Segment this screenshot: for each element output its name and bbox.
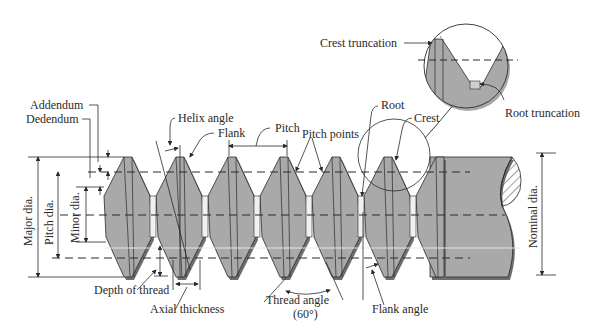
label-flank-angle: Flank angle [372, 302, 428, 316]
label-pitch-points: Pitch points [302, 127, 359, 141]
label-thread-angle-value: (60°) [293, 307, 318, 321]
label-nominal-dia: Nominal dia. [526, 185, 540, 248]
label-major-dia: Major dia. [21, 196, 35, 246]
label-dedendum: Dedendum [26, 112, 79, 126]
label-flank: Flank [218, 126, 245, 140]
label-pitch: Pitch [275, 121, 300, 135]
label-root-truncation: Root truncation [505, 106, 580, 120]
label-root: Root [381, 98, 405, 112]
label-pitch-dia: Pitch dia. [42, 200, 56, 245]
label-crest: Crest [414, 111, 440, 125]
label-depth-of-thread: Depth of thread [94, 283, 169, 297]
truncation-detail [404, 24, 518, 111]
label-helix-angle: Helix angle [178, 111, 234, 125]
label-axial-thickness: Axial thickness [150, 302, 225, 316]
label-crest-truncation: Crest truncation [320, 36, 397, 50]
label-minor-dia: Minor dia. [68, 192, 82, 243]
thread-diagram: Addendum Dedendum Helix angle Flank Pitc… [0, 0, 602, 334]
label-addendum: Addendum [30, 98, 84, 112]
thread-diagram-svg: Addendum Dedendum Helix angle Flank Pitc… [0, 0, 602, 334]
label-thread-angle: Thread angle [266, 293, 329, 307]
